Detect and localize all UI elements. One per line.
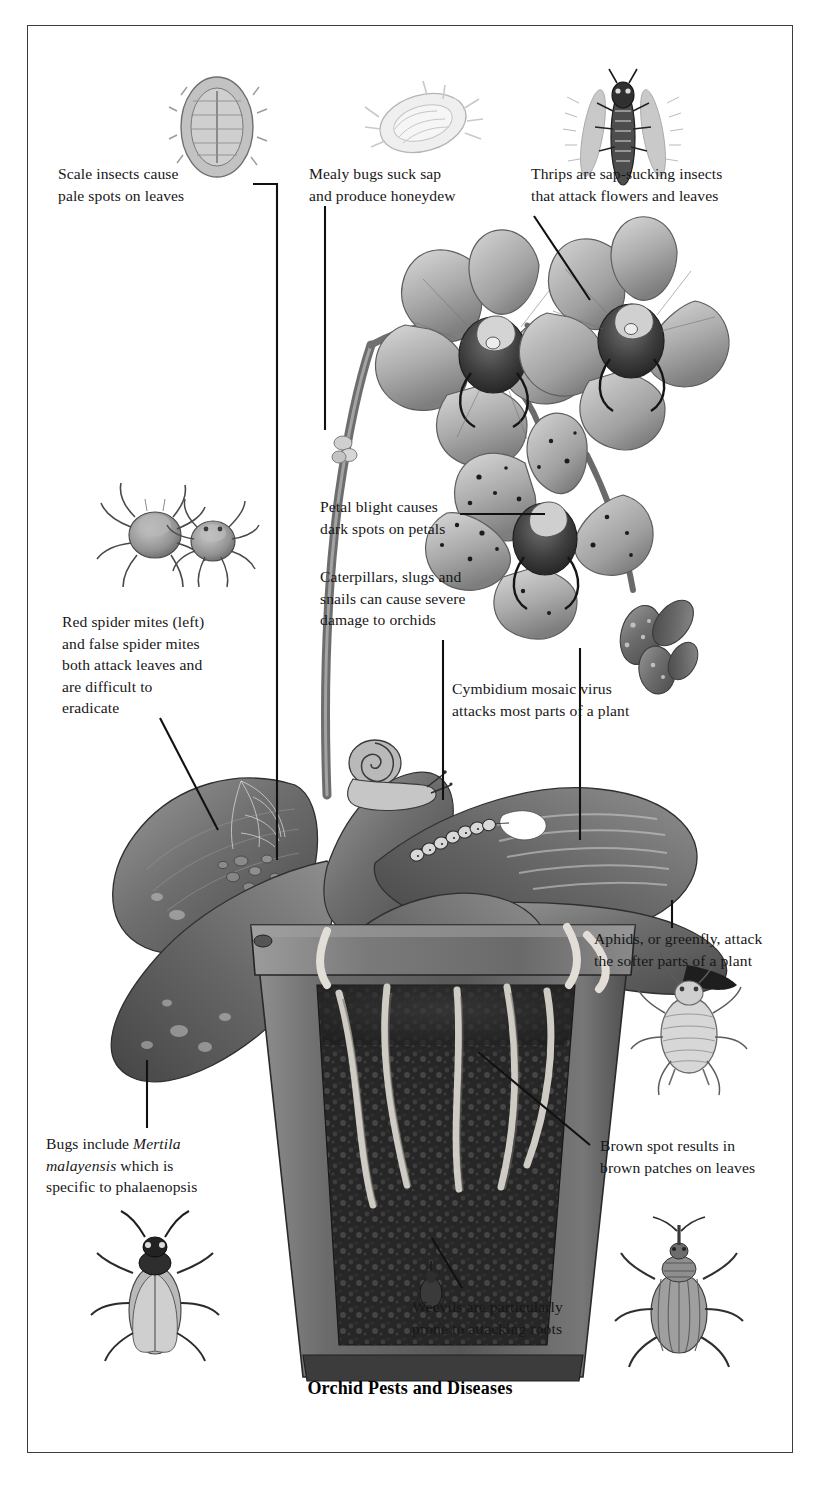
callout-thrips: Thrips are sap-sucking insects that atta… xyxy=(531,163,781,206)
callout-aphids: Aphids, or greenfly, attack the softer p… xyxy=(594,928,820,971)
callout-weevils: Weevils are particularly prone to attack… xyxy=(412,1296,642,1339)
illustration-page: Scale insects cause pale spots on leaves… xyxy=(0,0,820,1485)
figure-title: Orchid Pests and Diseases xyxy=(0,1378,820,1399)
callout-red-spider-mites: Red spider mites (left) and false spider… xyxy=(62,611,277,719)
callout-scale-insects: Scale insects cause pale spots on leaves xyxy=(58,163,288,206)
callout-bugs-mertila: Bugs include Mertila malayensis which is… xyxy=(46,1133,276,1198)
figure-border xyxy=(27,25,793,1453)
callout-mealy-bugs: Mealy bugs suck sap and produce honeydew xyxy=(309,163,529,206)
callout-petal-blight: Petal blight causes dark spots on petals xyxy=(320,496,520,539)
callout-brown-spot: Brown spot results in brown patches on l… xyxy=(600,1135,815,1178)
callout-caterpillars-slugs-snails: Caterpillars, slugs and snails can cause… xyxy=(320,566,535,631)
callout-cymbidium-mosaic-virus: Cymbidium mosaic virus attacks most part… xyxy=(452,678,712,721)
